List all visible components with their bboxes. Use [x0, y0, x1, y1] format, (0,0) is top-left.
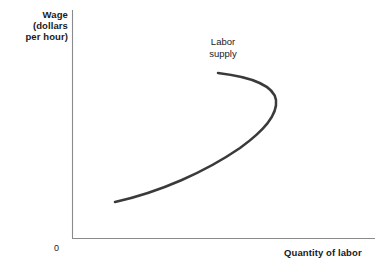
labor-supply-curve: [115, 73, 276, 202]
x-axis-title: Quantity of labor: [284, 247, 362, 258]
labor-supply-curve-label: Labor supply: [196, 36, 250, 59]
figure-canvas: Wage (dollars per hour) Quantity of labo…: [0, 0, 385, 273]
y-axis-title: Wage (dollars per hour): [6, 9, 68, 43]
origin-label: 0: [54, 243, 59, 254]
